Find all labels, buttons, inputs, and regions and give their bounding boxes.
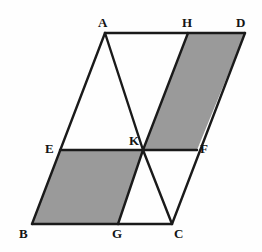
vertex-label-C: C xyxy=(174,227,183,240)
vertex-label-F: F xyxy=(200,142,208,155)
geometry-canvas xyxy=(0,0,262,252)
vertex-label-D: D xyxy=(236,16,245,29)
segment-KC xyxy=(143,150,172,224)
lower-left-shaded-parallelogram xyxy=(32,150,143,224)
vertex-label-G: G xyxy=(112,227,122,240)
vertex-label-K: K xyxy=(129,134,139,147)
vertex-label-A: A xyxy=(98,16,107,29)
vertex-label-E: E xyxy=(45,142,54,155)
geometry-figure: A B C D E F G H K xyxy=(0,0,262,252)
upper-right-shaded-parallelogram xyxy=(143,33,245,150)
vertex-label-B: B xyxy=(19,227,28,240)
vertex-label-H: H xyxy=(182,16,192,29)
